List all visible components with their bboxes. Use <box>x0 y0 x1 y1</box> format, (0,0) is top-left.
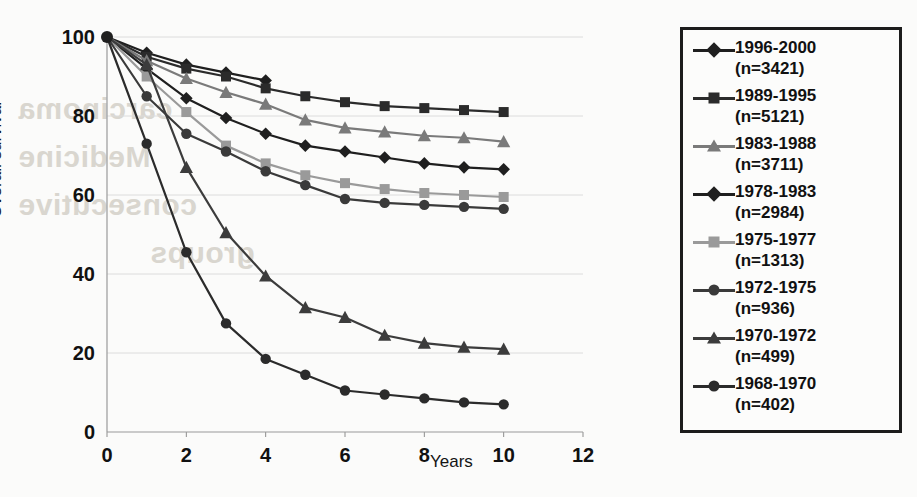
series-line <box>107 37 504 142</box>
legend-marker-glyph <box>709 237 720 248</box>
data-point-marker-circle <box>459 397 469 407</box>
legend-period: 1989-1995 <box>735 85 816 106</box>
plot-area <box>107 37 583 432</box>
data-point-marker-triangle <box>299 113 312 125</box>
legend-sample-size: (n=3711) <box>735 154 816 175</box>
legend-item-1970-1972[interactable]: 1970-1972(n=499) <box>683 325 899 373</box>
legend-marker-circle-icon <box>693 375 735 397</box>
data-point-marker-square <box>181 107 191 117</box>
data-point-marker-square <box>380 101 390 111</box>
chart-page: carcinoma Medicine consecutive groups 02… <box>0 0 917 497</box>
data-point-marker-circle <box>221 318 231 328</box>
data-point-marker-triangle <box>219 226 232 238</box>
data-point-marker-circle <box>340 194 350 204</box>
data-point-marker-circle <box>300 180 310 190</box>
data-point-marker-square <box>340 97 350 107</box>
legend-marker-square-icon <box>693 87 735 109</box>
data-point-marker-circle <box>379 389 389 399</box>
legend-period: 1968-1970 <box>735 373 816 394</box>
legend-marker-diamond-icon <box>693 39 735 61</box>
data-point-marker-circle <box>498 204 508 214</box>
data-point-marker-circle <box>181 129 191 139</box>
data-point-marker-circle <box>141 138 151 148</box>
data-point-marker-circle <box>260 354 270 364</box>
y-axis-tick-label: 0 <box>35 421 95 444</box>
data-point-marker-square <box>459 190 469 200</box>
origin-marker <box>101 31 113 43</box>
data-point-marker-circle <box>379 198 389 208</box>
x-axis-tick-label: 2 <box>156 444 216 467</box>
legend-label: 1972-1975(n=936) <box>735 277 816 319</box>
data-point-marker-diamond <box>497 163 510 176</box>
x-axis-tick-label: 4 <box>236 444 296 467</box>
legend-period: 1983-1988 <box>735 133 816 154</box>
legend-sample-size: (n=1313) <box>735 250 816 271</box>
legend-label: 1970-1972(n=499) <box>735 325 816 367</box>
data-point-marker-square <box>221 72 231 82</box>
legend-period: 1972-1975 <box>735 277 816 298</box>
legend-item-1975-1977[interactable]: 1975-1977(n=1313) <box>683 229 899 277</box>
x-axis-title: Years <box>430 452 473 472</box>
series-1978-1983 <box>107 37 510 176</box>
data-point-marker-square <box>419 188 429 198</box>
series-canvas <box>107 37 583 432</box>
y-axis-tick-label: 80 <box>35 105 95 128</box>
legend-item-1968-1970[interactable]: 1968-1970(n=402) <box>683 373 899 421</box>
legend-marker-glyph <box>709 285 720 296</box>
legend-period: 1978-1983 <box>735 181 816 202</box>
legend-sample-size: (n=3421) <box>735 58 816 79</box>
data-point-marker-square <box>300 91 310 101</box>
x-axis-tick-label: 10 <box>474 444 534 467</box>
legend-label: 1983-1988(n=3711) <box>735 133 816 175</box>
legend-marker-triangle-icon <box>693 135 735 157</box>
data-point-marker-square <box>380 184 390 194</box>
data-point-marker-square <box>499 192 509 202</box>
x-axis-tick-label: 0 <box>77 444 137 467</box>
series-1989-1995 <box>107 37 509 117</box>
legend-sample-size: (n=402) <box>735 394 816 415</box>
x-axis-tick-label: 6 <box>315 444 375 467</box>
data-point-marker-diamond <box>418 157 431 170</box>
legend-marker-glyph <box>706 42 722 58</box>
legend-item-1978-1983[interactable]: 1978-1983(n=2984) <box>683 181 899 229</box>
data-point-marker-circle <box>221 146 231 156</box>
data-point-marker-diamond <box>259 127 272 140</box>
data-point-marker-square <box>300 170 310 180</box>
legend-sample-size: (n=2984) <box>735 202 816 223</box>
y-axis-tick-label: 20 <box>35 342 95 365</box>
data-point-marker-triangle <box>180 72 193 84</box>
legend-marker-glyph <box>707 139 721 151</box>
y-axis-tick-label: 60 <box>35 184 95 207</box>
y-axis-tick-label: 40 <box>35 263 95 286</box>
legend-item-1989-1995[interactable]: 1989-1995(n=5121) <box>683 85 899 133</box>
data-point-marker-circle <box>181 247 191 257</box>
legend: 1996-2000(n=3421)1989-1995(n=5121)1983-1… <box>680 27 902 433</box>
data-point-marker-circle <box>141 91 151 101</box>
data-point-marker-triangle <box>378 329 391 341</box>
data-point-marker-square <box>459 105 469 115</box>
legend-marker-square-icon <box>693 231 735 253</box>
data-point-marker-diamond <box>339 145 352 158</box>
data-point-marker-square <box>499 107 509 117</box>
data-point-marker-square <box>261 83 271 93</box>
legend-label: 1968-1970(n=402) <box>735 373 816 415</box>
y-axis-title: Overall survival <box>0 65 6 255</box>
legend-item-1996-2000[interactable]: 1996-2000(n=3421) <box>683 37 899 85</box>
legend-marker-triangle-icon <box>693 327 735 349</box>
legend-sample-size: (n=5121) <box>735 106 816 127</box>
data-point-marker-diamond <box>378 151 391 164</box>
data-point-marker-diamond <box>299 139 312 152</box>
legend-label: 1996-2000(n=3421) <box>735 37 816 79</box>
legend-period: 1975-1977 <box>735 229 816 250</box>
legend-marker-glyph <box>707 331 721 343</box>
legend-sample-size: (n=936) <box>735 298 816 319</box>
legend-period: 1970-1972 <box>735 325 816 346</box>
legend-marker-glyph <box>709 93 720 104</box>
data-point-marker-diamond <box>220 112 233 125</box>
data-point-marker-triangle <box>180 161 193 173</box>
data-point-marker-circle <box>419 200 429 210</box>
legend-item-1983-1988[interactable]: 1983-1988(n=3711) <box>683 133 899 181</box>
y-axis-tick-label: 100 <box>35 26 95 49</box>
legend-marker-circle-icon <box>693 279 735 301</box>
legend-item-1972-1975[interactable]: 1972-1975(n=936) <box>683 277 899 325</box>
